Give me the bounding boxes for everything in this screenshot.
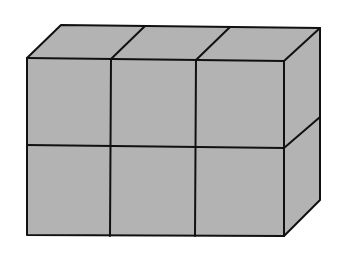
top-face xyxy=(27,25,320,61)
cube-arrangement-3x2 xyxy=(0,0,337,253)
cube-diagram xyxy=(0,0,337,253)
front-divider-1 xyxy=(110,59,111,236)
front-divider-2 xyxy=(195,60,196,236)
